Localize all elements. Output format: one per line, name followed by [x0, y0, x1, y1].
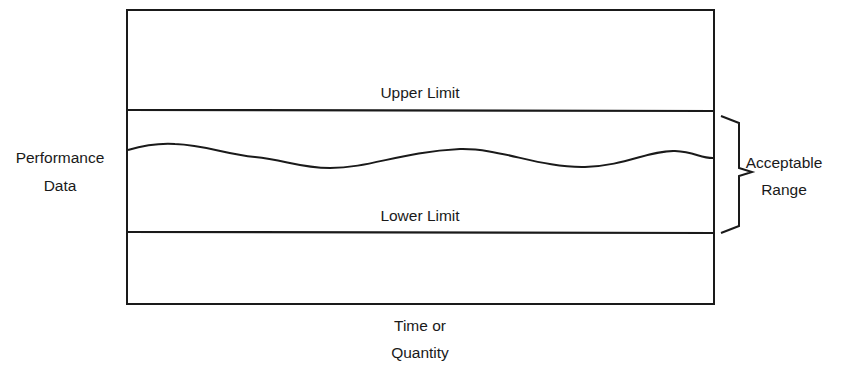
x-axis-label-line2: Quantity	[391, 344, 449, 361]
upper-limit-label: Upper Limit	[380, 84, 460, 101]
lower-limit-label: Lower Limit	[380, 207, 460, 224]
range-label-line2: Range	[761, 181, 807, 198]
y-axis-label-line1: Performance	[16, 149, 105, 166]
control-limits-diagram: Upper Limit Lower Limit Performance Data…	[0, 0, 863, 370]
range-label-line1: Acceptable	[746, 154, 823, 171]
lower-limit-line	[127, 232, 714, 233]
acceptable-range-brace	[721, 116, 752, 233]
performance-curve	[128, 144, 713, 168]
upper-limit-line	[127, 110, 714, 111]
x-axis-label-line1: Time or	[394, 317, 446, 334]
outer-frame	[127, 10, 714, 304]
y-axis-label-line2: Data	[44, 177, 77, 194]
